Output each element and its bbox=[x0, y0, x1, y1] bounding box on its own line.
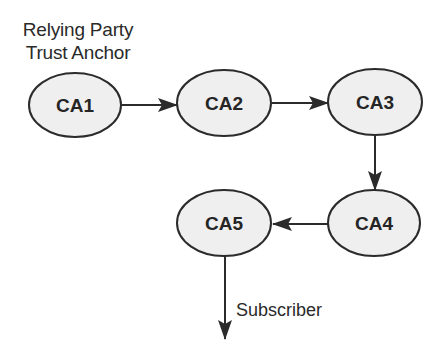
node-ca1: CA1 bbox=[29, 73, 121, 137]
node-ca4-label: CA4 bbox=[355, 213, 393, 234]
node-ca2-label: CA2 bbox=[205, 93, 243, 114]
node-ca5-label: CA5 bbox=[205, 213, 243, 234]
node-ca3: CA3 bbox=[328, 69, 422, 135]
node-ca3-label: CA3 bbox=[356, 92, 394, 113]
node-ca4: CA4 bbox=[328, 190, 420, 256]
subscriber-label: Subscriber bbox=[236, 300, 322, 321]
node-ca1-label: CA1 bbox=[56, 95, 94, 116]
node-ca5: CA5 bbox=[177, 190, 271, 256]
certification-path-diagram: CA1 CA2 CA3 CA4 CA5 bbox=[0, 0, 441, 354]
node-ca2: CA2 bbox=[177, 70, 271, 136]
